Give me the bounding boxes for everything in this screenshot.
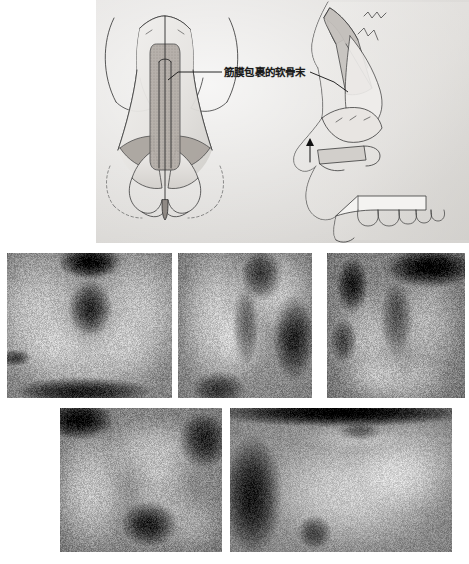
- photo-intraoperative-basal-view: [7, 253, 172, 398]
- photo-intraoperative-oblique-view: [178, 253, 312, 398]
- photo-intraoperative-graft-insertion: [60, 408, 222, 552]
- photo-postoperative-dorsum-profile: [230, 408, 452, 552]
- lateral-view-group: [294, 2, 469, 242]
- figure-page: 筋膜包裹的软骨末: [0, 0, 469, 564]
- nose-anatomy-illustration: [96, 0, 469, 243]
- photo-intraoperative-graft-placement: [327, 253, 465, 398]
- anatomical-illustration-panel: 筋膜包裹的软骨末: [96, 0, 469, 243]
- fascia-wrapped-cartilage-end-label: 筋膜包裹的软骨末: [224, 66, 306, 78]
